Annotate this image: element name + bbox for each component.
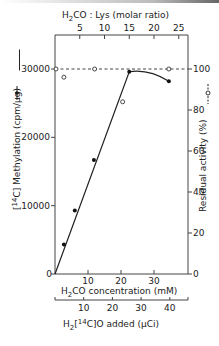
series-methylation: [55, 70, 171, 274]
y2-tick-label: 100: [193, 64, 210, 74]
y-tick-label: 0: [46, 269, 52, 279]
x-tick-label: 10: [82, 276, 94, 286]
data-point: [62, 243, 66, 247]
x2-axis-label: H2[14C]O added (µCi): [63, 318, 159, 332]
data-point: [127, 70, 131, 74]
data-point: [73, 208, 77, 212]
y2-tick-label: 0: [193, 269, 199, 279]
data-point: [167, 67, 171, 71]
data-point: [92, 158, 96, 162]
x2-tick-label: 20: [107, 303, 119, 313]
series-residual-activity: [54, 67, 171, 104]
second-x-axis: 10203040 H2[14C]O added (µCi): [55, 297, 188, 332]
y-tick-label: 30000: [21, 64, 50, 74]
top-tick-label: 15: [124, 23, 135, 33]
data-point: [167, 79, 171, 83]
y2-tick-label: 80: [193, 105, 205, 115]
top-tick-label: 20: [148, 23, 160, 33]
chart: H2CO : Lys (molar ratio) 510152025 01000…: [0, 0, 219, 346]
y-tick-label: 20000: [21, 132, 50, 142]
data-point: [121, 100, 125, 104]
left-axis: 0100002000030000 [14C] Methylation (cpm/…: [11, 50, 55, 280]
top-tick-label: 10: [99, 23, 111, 33]
y2-axis-label: Residual activity (%): [198, 120, 208, 212]
right-axis: 020406080100 Residual activity (%): [188, 64, 210, 279]
x2-tick-label: 40: [164, 303, 176, 313]
x-tick-label: 20: [115, 276, 127, 286]
x2-tick-label: 10: [78, 303, 90, 313]
data-point: [54, 67, 58, 71]
x-axis-label: H2CO concentration (mM): [61, 286, 177, 299]
data-point: [93, 67, 97, 71]
x2-tick-label: 30: [135, 303, 147, 313]
x-tick-label: 30: [148, 276, 160, 286]
top-axis-label: H2CO : Lys (molar ratio): [62, 10, 169, 23]
y-axis-label: [14C] Methylation (cpm/µg): [11, 88, 22, 210]
y2-tick-label: 20: [193, 228, 205, 238]
top-tick-label: 5: [77, 23, 83, 33]
data-point: [62, 75, 66, 79]
open-circle-legend-icon: [206, 84, 210, 104]
y-tick-label: 10000: [21, 201, 50, 211]
top-tick-label: 25: [173, 23, 184, 33]
